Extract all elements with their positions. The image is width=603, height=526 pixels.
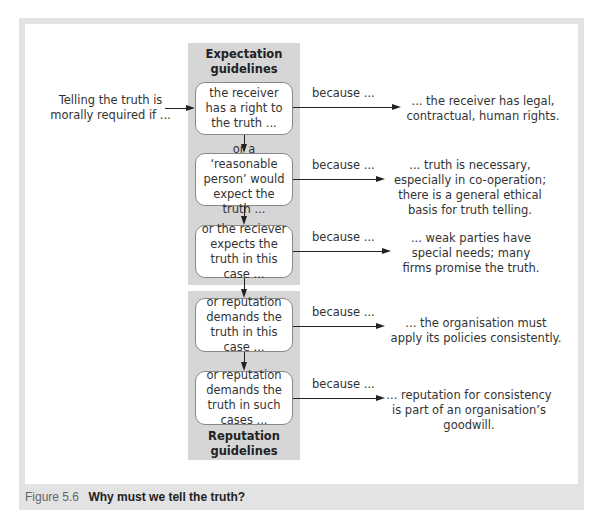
- down-arrow-2-head: [241, 216, 247, 225]
- because-label-2: because ...: [312, 158, 375, 172]
- condition-box-3: or the reciever expects the truth in thi…: [195, 225, 293, 278]
- down-arrow-4-head: [241, 362, 247, 371]
- row-4-arrow-head: [376, 323, 385, 329]
- because-label-1: because ...: [312, 86, 375, 100]
- figure-caption: Figure 5.6 Why must we tell the truth?: [25, 490, 245, 508]
- because-label-5: because ...: [312, 377, 375, 391]
- figure-number: Figure 5.6: [25, 490, 79, 504]
- reason-text-5: ... reputation for consistency is part o…: [384, 388, 554, 433]
- reason-text-4: ... the organisation must apply its poli…: [388, 316, 564, 346]
- row-5-arrow-line: [293, 398, 377, 400]
- row-2-arrow-head: [376, 176, 385, 182]
- intro-text: Telling the truth is morally required if…: [38, 93, 183, 123]
- row-1-arrow-line: [293, 107, 393, 109]
- reason-text-3: ... weak parties have special needs; man…: [396, 231, 546, 276]
- expectation-panel-label: Expectation guidelines: [188, 47, 300, 77]
- condition-box-4: or reputation demands the truth in this …: [195, 298, 293, 352]
- row-4-arrow-line: [293, 326, 377, 328]
- row-3-arrow-line: [293, 251, 383, 253]
- reason-text-1: ... the receiver has legal, contractual,…: [398, 94, 568, 124]
- condition-box-1: the receiver has a right to the truth ..…: [195, 82, 293, 135]
- row-2-arrow-line: [293, 179, 377, 181]
- because-label-3: because ...: [312, 230, 375, 244]
- condition-box-2: or a ‘reasonable person’ would expect th…: [195, 153, 293, 206]
- figure-title: Why must we tell the truth?: [88, 490, 245, 504]
- intro-arrow-head: [186, 105, 195, 111]
- row-3-arrow-head: [382, 248, 391, 254]
- down-arrow-3-head: [241, 289, 247, 298]
- because-label-4: because ...: [312, 305, 375, 319]
- condition-box-5: or reputation demands the truth in such …: [195, 371, 293, 425]
- intro-arrow-line: [165, 108, 187, 110]
- reputation-panel-label: Reputation guidelines: [188, 429, 300, 459]
- down-arrow-1-head: [241, 144, 247, 153]
- reason-text-2: ... truth is necessary, especially in co…: [386, 158, 554, 218]
